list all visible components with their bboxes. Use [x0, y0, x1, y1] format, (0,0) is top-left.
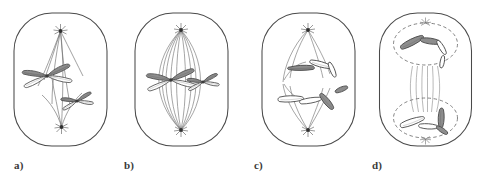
mitosis-figure: a) [0, 0, 485, 187]
panel-b: b) [121, 0, 242, 187]
panel-d: d) [365, 0, 485, 187]
panel-c: c) [248, 0, 369, 187]
panel-label-c: c) [254, 160, 263, 171]
panel-a: a) [0, 0, 121, 187]
panel-label-b: b) [124, 160, 134, 171]
panel-label-a: a) [14, 160, 24, 171]
cell-membrane [262, 13, 355, 146]
panel-label-d: d) [372, 160, 382, 171]
